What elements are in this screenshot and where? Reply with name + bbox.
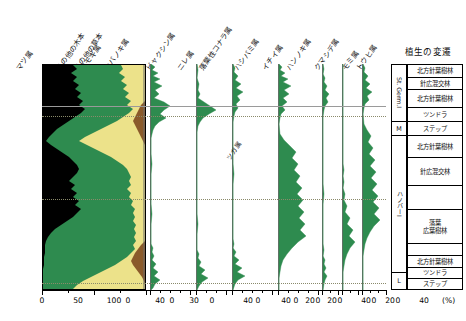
- main-stacked-column-frame: [42, 64, 146, 290]
- zone-boundary-4: [42, 283, 386, 284]
- x-tick-label-9: 0: [256, 296, 261, 305]
- x-tick-26: [338, 290, 339, 295]
- x-tick-label-17: 0: [372, 296, 377, 305]
- x-tick-25: [330, 290, 331, 293]
- stratigraphy-group-1: M: [391, 122, 407, 136]
- x-tick-11: [206, 290, 207, 293]
- x-tick-label-7: 0: [210, 296, 215, 305]
- vegetation-row-3: ツンドラ: [407, 108, 463, 122]
- x-tick-label-14: 20: [327, 296, 337, 305]
- x-tick-4: [146, 290, 147, 295]
- curve-corylus: [322, 64, 342, 290]
- stratigraphy-group-label-0: St. Germ.I: [396, 77, 402, 108]
- x-tick-18: [272, 290, 273, 295]
- zone-boundary-3: [42, 199, 386, 200]
- x-tick-15: [242, 290, 243, 293]
- vegetation-row-label-4: ステップ: [423, 125, 447, 132]
- vegetation-row-label-10: 北方針葉樹林: [417, 258, 453, 265]
- panel-taxus: [342, 64, 362, 290]
- column-header-0: マツ属: [14, 49, 35, 72]
- x-tick-5: [150, 290, 151, 295]
- x-tick-9: [190, 290, 191, 295]
- x-tick-6: [160, 290, 161, 293]
- stratigraphy-group-0: St. Germ.I: [391, 64, 407, 122]
- x-tick-33: [386, 290, 387, 295]
- x-tick-label-15: 0: [338, 296, 343, 305]
- x-tick-13: [226, 290, 227, 295]
- vegetation-row-2: 北方針葉樹林: [407, 90, 463, 108]
- vegetation-row-11: ツンドラ: [407, 268, 463, 279]
- vegetation-row-label-8: 落葉 広葉樹林: [423, 219, 447, 233]
- panel-betula: [150, 64, 192, 290]
- x-tick-20: [288, 290, 289, 293]
- panel-juniperus: [196, 64, 228, 290]
- x-tick-label-6: 30: [189, 296, 199, 305]
- vegetation-row-label-5: 北方針葉樹林: [417, 143, 453, 150]
- x-tick-1: [68, 290, 69, 293]
- vegetation-row-7: [407, 186, 463, 210]
- vegetation-row-1: 針広混交林: [407, 78, 463, 90]
- curve-alnus: [362, 64, 386, 290]
- x-tick-label-18: 20: [385, 296, 395, 305]
- vegetation-row-10: 北方針葉樹林: [407, 256, 463, 268]
- x-tick-label-11: 0: [294, 296, 299, 305]
- x-tick-label-12: 20: [305, 296, 315, 305]
- x-tick-23: [318, 290, 319, 295]
- panel-alnus: [362, 64, 386, 290]
- vegetation-row-5: 北方針葉樹林: [407, 136, 463, 158]
- x-tick-14: [232, 290, 233, 295]
- curve-ulmus: [232, 64, 274, 290]
- vegetation-row-label-1: 針広混交林: [420, 80, 450, 87]
- stratigraphy-group-label-2: ハノバーI: [396, 191, 402, 217]
- x-tick-label-20: 40: [419, 296, 429, 305]
- vegetation-row-label-11: ツンドラ: [423, 269, 447, 276]
- x-tick-label-13: 0: [316, 296, 321, 305]
- vegetation-row-label-3: ツンドラ: [423, 111, 447, 118]
- x-tick-3: [120, 290, 121, 293]
- vegetation-row-4: ステップ: [407, 122, 463, 136]
- x-tick-8: [180, 290, 181, 293]
- vegetation-row-label-0: 北方針葉樹林: [417, 67, 453, 74]
- zone-boundary-1: [42, 106, 386, 107]
- main-stacked-column-plot: [43, 65, 145, 289]
- x-tick-label-0: 0: [40, 296, 45, 305]
- stratigraphy-group-label-1: M: [396, 125, 402, 133]
- x-axis-percent-label: (%): [442, 296, 455, 305]
- x-tick-label-4: 40: [155, 296, 165, 305]
- x-tick-label-1: 50: [73, 296, 83, 305]
- x-tick-32: [378, 290, 379, 293]
- panel-quercus-deciduous: [278, 64, 320, 290]
- vegetation-row-label-6: 針広混交林: [420, 168, 450, 175]
- x-tick-label-10: 40: [281, 296, 291, 305]
- curve-betula: [150, 64, 192, 290]
- x-tick-10: [196, 290, 197, 295]
- x-tick-16: [252, 290, 253, 293]
- x-tick-29: [358, 290, 359, 295]
- x-tick-12: [216, 290, 217, 293]
- vegetation-panel-title: 植生の変遷: [389, 45, 466, 57]
- x-tick-label-19: 0: [396, 296, 401, 305]
- pollen-diagram-figure: マツ属その他の木本その他の草本ヨモギ属カバノキ属ビャクシン属ニレ属落葉性コナラ属…: [0, 0, 466, 321]
- x-tick-17: [262, 290, 263, 293]
- x-tick-24: [322, 290, 323, 295]
- x-tick-22: [308, 290, 309, 293]
- x-tick-label-3: 0: [126, 296, 131, 305]
- stratigraphy-group-label-3: L: [397, 277, 401, 285]
- x-tick-30: [362, 290, 363, 295]
- x-tick-2: [94, 290, 95, 295]
- vegetation-row-label-2: 北方針葉樹林: [417, 95, 453, 102]
- stratigraphy-group-3: L: [391, 273, 407, 290]
- vegetation-row-12: ステップ: [407, 279, 463, 290]
- x-tick-31: [370, 290, 371, 293]
- panel-corylus: [322, 64, 342, 290]
- stratigraphy-group-2: ハノバーI: [391, 136, 407, 273]
- vegetation-row-6: 針広混交林: [407, 158, 463, 186]
- x-tick-label-5: 0: [170, 296, 175, 305]
- x-tick-28: [350, 290, 351, 293]
- x-tick-label-16: 40: [361, 296, 371, 305]
- vegetation-row-0: 北方針葉樹林: [407, 64, 463, 78]
- vegetation-succession-panel: St. Germ.IMハノバーIL北方針葉樹林針広混交林北方針葉樹林ツンドラステ…: [391, 64, 463, 290]
- vegetation-row-9: [407, 244, 463, 256]
- vegetation-row-label-12: ステップ: [423, 280, 447, 287]
- x-tick-7: [170, 290, 171, 293]
